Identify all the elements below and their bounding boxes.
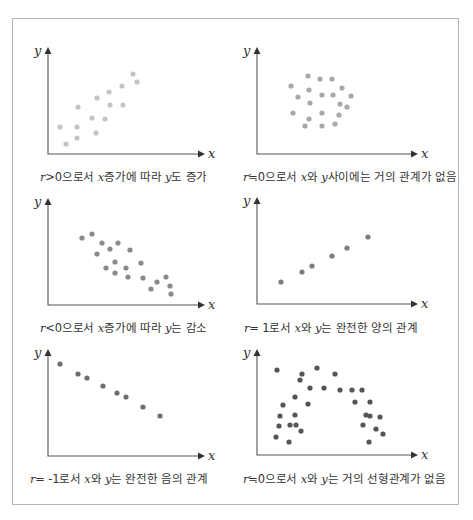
data-point bbox=[154, 279, 159, 284]
data-point bbox=[119, 83, 124, 88]
caption-panel-1: r>0으로서 x증가에 따라 y도 증가 bbox=[40, 168, 207, 184]
scatter-panel-3: yx bbox=[33, 194, 216, 312]
x-axis-label: x bbox=[421, 296, 429, 311]
data-point bbox=[302, 123, 307, 128]
data-point bbox=[299, 269, 304, 274]
x-axis-label: x bbox=[421, 146, 429, 161]
x-axis-arrow-icon bbox=[198, 302, 205, 309]
data-point bbox=[106, 89, 111, 94]
data-point bbox=[319, 123, 324, 128]
data-point bbox=[286, 439, 291, 444]
data-point bbox=[306, 116, 311, 121]
data-point bbox=[103, 265, 108, 270]
data-point bbox=[367, 399, 372, 404]
data-point bbox=[167, 283, 172, 288]
data-point bbox=[84, 375, 89, 380]
data-point bbox=[274, 367, 279, 372]
data-point bbox=[74, 124, 79, 129]
data-point bbox=[278, 279, 283, 284]
data-point bbox=[330, 92, 335, 97]
data-point bbox=[130, 71, 135, 76]
data-point bbox=[57, 124, 62, 129]
data-point bbox=[276, 423, 281, 428]
data-point bbox=[273, 434, 278, 439]
data-point bbox=[373, 426, 378, 431]
data-point bbox=[317, 76, 322, 81]
data-point bbox=[344, 104, 349, 109]
x-axis-arrow-icon bbox=[411, 452, 418, 459]
axes bbox=[257, 355, 412, 455]
data-point bbox=[79, 235, 84, 240]
data-point bbox=[140, 404, 145, 409]
y-axis-label: y bbox=[33, 345, 42, 360]
caption-text: <0으로서 bbox=[45, 321, 97, 335]
y-axis-arrow-icon bbox=[254, 349, 261, 356]
y-axis-label: y bbox=[242, 345, 251, 360]
data-point bbox=[305, 73, 310, 78]
data-point bbox=[297, 377, 302, 382]
caption-text: ≒0으로서 bbox=[248, 170, 300, 184]
data-point bbox=[344, 245, 349, 250]
axes bbox=[48, 355, 199, 456]
data-point bbox=[138, 260, 143, 265]
data-point bbox=[380, 431, 385, 436]
data-point bbox=[163, 274, 168, 279]
caption-text: 와 bbox=[307, 472, 321, 486]
caption-text: 와 bbox=[91, 472, 105, 486]
scatter-panel-4: yx bbox=[242, 193, 429, 311]
data-point bbox=[74, 135, 79, 140]
data-point bbox=[339, 85, 344, 90]
data-point bbox=[100, 383, 105, 388]
data-point bbox=[75, 371, 80, 376]
data-point bbox=[336, 112, 341, 117]
scatter-panel-5: yx bbox=[33, 345, 216, 463]
x-axis-arrow-icon bbox=[198, 151, 205, 158]
data-point bbox=[89, 231, 94, 236]
data-point bbox=[94, 95, 99, 100]
data-point bbox=[102, 116, 107, 121]
scatter-plots: yxyxyxyxyxyx bbox=[0, 0, 473, 520]
data-point bbox=[352, 399, 357, 404]
data-point bbox=[123, 265, 128, 270]
caption-text: ≒0으로서 bbox=[248, 472, 300, 486]
data-point bbox=[305, 401, 310, 406]
caption-text: >0으로서 bbox=[45, 170, 97, 184]
data-point bbox=[168, 291, 173, 296]
caption-text: 증가에 따라 bbox=[104, 321, 165, 335]
data-point bbox=[292, 394, 297, 399]
data-point bbox=[359, 387, 364, 392]
data-point bbox=[319, 92, 324, 97]
data-point bbox=[365, 234, 370, 239]
data-point bbox=[307, 100, 312, 105]
y-axis-arrow-icon bbox=[254, 47, 261, 54]
data-point bbox=[321, 385, 326, 390]
caption-text: 증가에 따라 bbox=[104, 170, 165, 184]
caption-text: 와 bbox=[301, 321, 315, 335]
data-point bbox=[314, 365, 319, 370]
caption-text: 는 거의 선형관계가 없음 bbox=[328, 472, 446, 486]
axes bbox=[257, 203, 412, 304]
data-point bbox=[295, 94, 300, 99]
data-point bbox=[307, 385, 312, 390]
y-axis-arrow-icon bbox=[45, 198, 52, 205]
data-point bbox=[299, 371, 304, 376]
scatter-panel-2: yx bbox=[242, 43, 429, 161]
data-point bbox=[306, 87, 311, 92]
data-point bbox=[277, 413, 282, 418]
data-point bbox=[107, 246, 112, 251]
data-point bbox=[127, 247, 132, 252]
axes bbox=[257, 53, 412, 154]
y-axis-label: y bbox=[33, 43, 42, 58]
data-point bbox=[115, 240, 120, 245]
data-point bbox=[329, 76, 334, 81]
data-point bbox=[57, 361, 62, 366]
scatter-panel-6: yx bbox=[242, 345, 429, 462]
data-point bbox=[332, 371, 337, 376]
data-point bbox=[367, 413, 372, 418]
x-axis-label: x bbox=[208, 146, 216, 161]
y-axis-label: y bbox=[242, 43, 251, 58]
data-point bbox=[348, 93, 353, 98]
data-point bbox=[293, 422, 298, 427]
data-point bbox=[114, 390, 119, 395]
data-point bbox=[329, 253, 334, 258]
